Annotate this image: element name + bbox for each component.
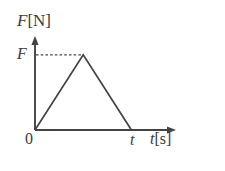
x-axis-tick-label-t: t	[130, 132, 134, 148]
y-axis-arrow-icon	[31, 36, 38, 45]
y-axis-tick-label-f: F	[17, 46, 27, 62]
x-axis-title-unit: [s]	[154, 130, 171, 147]
origin-label: 0	[25, 131, 33, 147]
x-axis-title: t[s]	[150, 131, 171, 147]
y-axis-title-unit: [N]	[27, 11, 51, 30]
y-axis-title: F[N]	[17, 12, 51, 29]
y-axis-title-variable: F	[17, 11, 27, 30]
force-pulse-curve	[35, 55, 131, 130]
force-time-graph-figure: F[N] t[s] F 0 t	[0, 0, 225, 171]
